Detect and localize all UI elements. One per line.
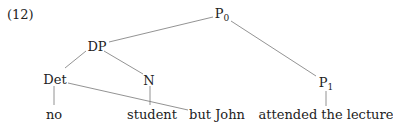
node-label: P <box>319 75 328 90</box>
example-number: (12) <box>7 7 34 22</box>
leaf-but-john: but John <box>189 108 245 121</box>
edge-dp-det <box>65 51 86 68</box>
edge-p0-p1 <box>231 21 316 76</box>
node-det: Det <box>43 73 66 86</box>
node-subscript: 0 <box>224 13 230 23</box>
node-dp: DP <box>87 40 106 53</box>
node-n: N <box>143 74 154 87</box>
node-p1: P1 <box>319 76 333 93</box>
leaf-student: student <box>127 108 177 121</box>
leaf-attended-the-lecture: attended the lecture <box>259 108 393 121</box>
node-p0: P0 <box>215 7 229 24</box>
edge-dp-n <box>104 51 143 74</box>
node-label: P <box>215 6 224 21</box>
edge-p0-dp <box>109 17 213 42</box>
node-subscript: 1 <box>328 82 334 92</box>
leaf-no: no <box>46 108 62 121</box>
